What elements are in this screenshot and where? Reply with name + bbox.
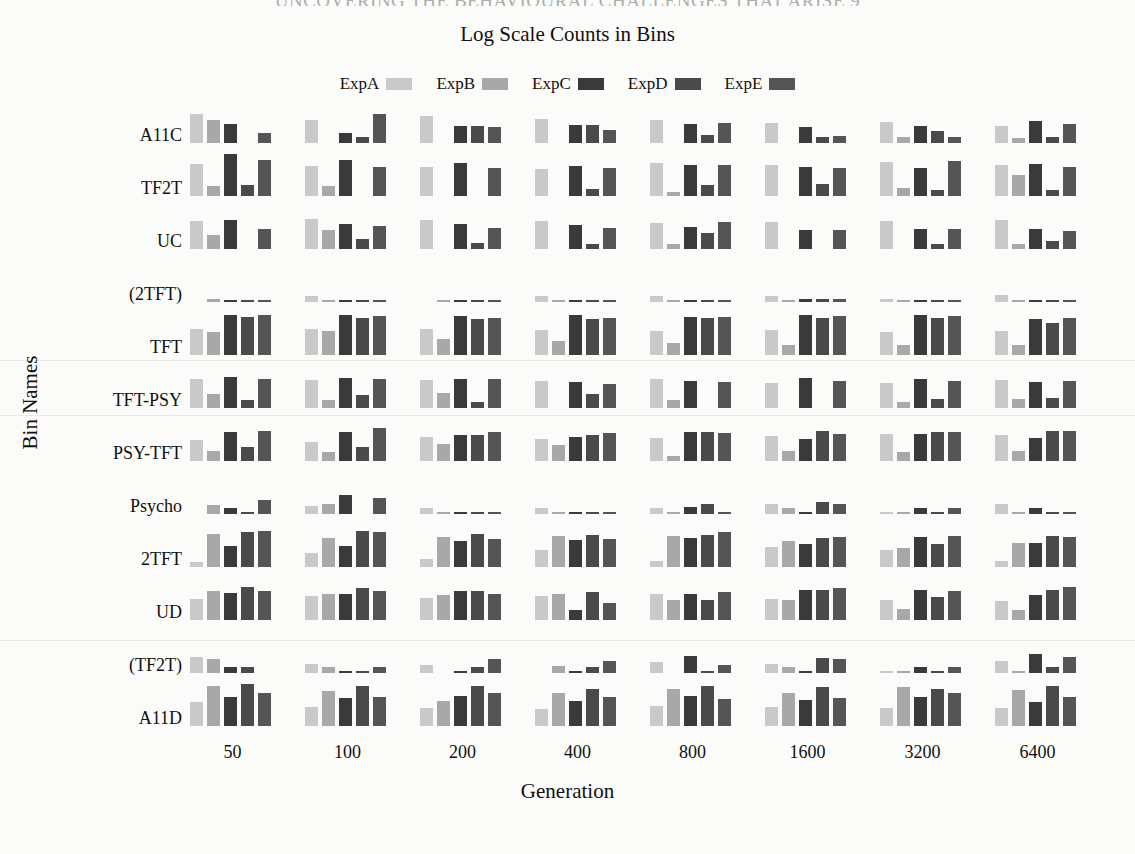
bar: [833, 381, 846, 408]
bar: [356, 137, 369, 143]
bar: [241, 447, 254, 461]
bar: [437, 701, 450, 726]
bar-group: [995, 627, 1080, 673]
bar: [667, 192, 680, 196]
bar: [931, 671, 944, 673]
bar: [224, 154, 237, 196]
bar: [305, 296, 318, 302]
bar: [420, 437, 433, 461]
bar: [1012, 345, 1025, 355]
bar: [782, 693, 795, 726]
bar-group: [420, 256, 505, 302]
bar: [322, 594, 335, 620]
bar: [1046, 398, 1059, 408]
bar: [258, 591, 271, 620]
bar: [586, 592, 599, 620]
bar: [241, 185, 254, 196]
bar: [586, 689, 599, 726]
bar: [948, 300, 961, 302]
bar: [339, 671, 352, 673]
bar: [799, 230, 812, 249]
bar: [552, 341, 565, 355]
bar: [765, 707, 778, 726]
bar-group: [650, 256, 735, 302]
bar: [454, 671, 467, 673]
bar: [914, 126, 927, 143]
bar: [995, 331, 1008, 355]
bar: [552, 594, 565, 620]
bar: [535, 550, 548, 567]
bar: [931, 512, 944, 514]
bar: [322, 667, 335, 673]
bar: [684, 381, 697, 408]
bar: [586, 244, 599, 249]
bar-group: [420, 680, 505, 726]
bar: [603, 384, 616, 408]
bar-group: [535, 680, 620, 726]
bar: [948, 508, 961, 514]
bar-group: [305, 97, 390, 143]
bar: [241, 667, 254, 673]
bar: [1012, 543, 1025, 567]
bar: [552, 536, 565, 567]
bar: [224, 220, 237, 249]
bar: [1063, 231, 1076, 249]
bin-label: (TF2T): [30, 656, 182, 674]
bar: [569, 540, 582, 567]
bar: [931, 597, 944, 620]
bar: [258, 229, 271, 249]
bar: [339, 698, 352, 726]
bar: [833, 136, 846, 143]
bar: [305, 219, 318, 249]
bar: [816, 431, 829, 461]
bar: [373, 428, 386, 461]
bar: [995, 126, 1008, 143]
bar: [488, 379, 501, 408]
bar-group: [880, 627, 965, 673]
bar: [718, 317, 731, 355]
bar: [603, 130, 616, 143]
bar-group: [420, 468, 505, 514]
bar: [1063, 300, 1076, 302]
bin-label: TF2T: [30, 179, 182, 197]
bar: [1029, 508, 1042, 514]
bar: [552, 445, 565, 461]
scan-artifact-line: [0, 360, 1135, 361]
bar: [948, 591, 961, 620]
bar: [190, 114, 203, 143]
bin-row-psycho: Psycho: [30, 497, 180, 515]
bar-group: [650, 627, 735, 673]
bar: [897, 671, 910, 673]
bar: [603, 433, 616, 461]
bar: [931, 190, 944, 196]
bar: [782, 345, 795, 355]
bar: [420, 665, 433, 673]
bar: [1029, 595, 1042, 620]
bar: [880, 708, 893, 726]
bar: [1029, 702, 1042, 726]
bar: [1012, 512, 1025, 514]
bar: [684, 300, 697, 302]
bar: [535, 296, 548, 302]
bar: [373, 379, 386, 408]
bar: [765, 664, 778, 673]
bar: [356, 239, 369, 249]
bar: [569, 671, 582, 673]
bar-group: [650, 362, 735, 408]
bar: [701, 535, 714, 567]
bar-group: [765, 309, 850, 355]
bar: [190, 599, 203, 620]
bar: [1063, 537, 1076, 567]
x-tick-label: 6400: [983, 742, 1092, 763]
bar: [552, 512, 565, 514]
bar-group: [880, 256, 965, 302]
bar: [488, 127, 501, 143]
bar: [1029, 382, 1042, 408]
bar: [718, 665, 731, 673]
bar: [931, 399, 944, 408]
bar: [437, 537, 450, 567]
bar: [224, 377, 237, 408]
bar: [1012, 451, 1025, 461]
bar: [833, 504, 846, 514]
bar: [471, 667, 484, 673]
